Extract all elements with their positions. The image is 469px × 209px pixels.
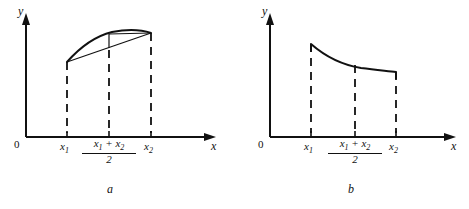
x-tick-label-midpoint-a-denominator: 2 [82, 154, 136, 166]
x-tick-label-midpoint-b-numerator: x1 + x2 [328, 138, 382, 154]
panel-b: y x 0 x1 x1 + x2 2 x2 b [235, 0, 469, 209]
mid-a-num-x1-sub: 1 [99, 143, 103, 152]
mid-b-num-x1-sub: 1 [345, 143, 349, 152]
x-tick-label-midpoint-b: x1 + x2 2 [328, 138, 382, 165]
panel-a-graphic [0, 0, 234, 209]
x-tick-label-x1-a: x1 [60, 140, 69, 155]
x-tick-label-midpoint-a-numerator: x1 + x2 [82, 138, 136, 154]
figure-container: y x 0 x1 x1 + x2 2 x2 a [0, 0, 469, 209]
x-tick-label-x1-b-sub: 1 [309, 146, 313, 155]
mid-b-plus: + [351, 137, 358, 149]
convex-curve-b [311, 44, 396, 72]
panel-b-caption: b [348, 182, 354, 197]
x-tick-label-midpoint-b-denominator: 2 [328, 154, 382, 166]
x-tick-label-x2-b-sub: 2 [394, 146, 398, 155]
origin-label-b: 0 [258, 138, 264, 150]
panel-a-caption: a [107, 182, 113, 197]
x-axis-label-a: x [211, 139, 216, 154]
panel-a: y x 0 x1 x1 + x2 2 x2 a [0, 0, 234, 209]
x-tick-label-x2-b: x2 [389, 140, 398, 155]
origin-label-a: 0 [14, 138, 20, 150]
x-axis-label-b: x [451, 139, 456, 154]
apex-connector-a [109, 33, 151, 34]
x-tick-label-x1-b: x1 [304, 140, 313, 155]
y-axis-label-b: y [262, 4, 267, 19]
x-tick-label-x2-a-sub: 2 [149, 146, 153, 155]
mid-b-num-x2-sub: 2 [366, 143, 370, 152]
x-tick-label-x1-a-sub: 1 [65, 146, 69, 155]
y-axis-label-a: y [18, 4, 23, 19]
x-tick-label-midpoint-a: x1 + x2 2 [82, 138, 136, 165]
mid-a-num-x2-sub: 2 [120, 143, 124, 152]
panel-b-graphic [235, 0, 469, 209]
mid-a-plus: + [105, 137, 112, 149]
x-tick-label-x2-a: x2 [144, 140, 153, 155]
